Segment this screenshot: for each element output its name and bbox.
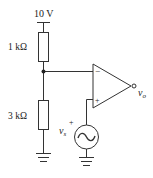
source-polarity: + [69, 118, 74, 127]
r2-label: 3 kΩ [8, 111, 27, 121]
junction-dot [42, 70, 46, 74]
r1-label: 1 kΩ [8, 42, 27, 52]
resistor-3k [39, 101, 49, 130]
wire-to-noninverting-input [87, 100, 94, 126]
resistor-1k [39, 33, 49, 62]
output-label: vo [138, 87, 146, 100]
noninverting-symbol: + [95, 96, 100, 105]
sine-wave-icon [78, 133, 95, 140]
output-terminal [132, 84, 136, 88]
ground-left-icon [36, 154, 51, 162]
source-label: vs [59, 125, 66, 138]
inverting-symbol: − [95, 66, 100, 76]
circuit-diagram: 10 V 1 kΩ 3 kΩ − + + vs vo [0, 0, 153, 178]
ground-right-icon [79, 158, 94, 166]
supply-label: 10 V [34, 8, 54, 19]
